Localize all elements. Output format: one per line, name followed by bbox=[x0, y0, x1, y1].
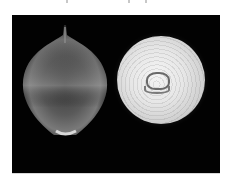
cropped-caption-remnants bbox=[0, 0, 226, 4]
whole-onion-image bbox=[20, 23, 110, 143]
onion-photo bbox=[12, 15, 220, 173]
onion-core-lower bbox=[144, 86, 170, 94]
cut-onion-image bbox=[117, 36, 205, 124]
